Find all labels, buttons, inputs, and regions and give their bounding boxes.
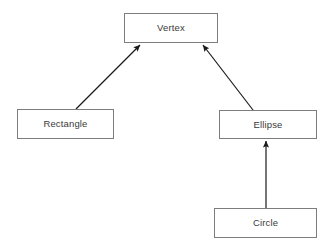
node-ellipse-label: Ellipse [253, 120, 282, 130]
node-circle-label: Circle [253, 218, 278, 228]
edge-rectangle-to-vertex [76, 45, 140, 109]
node-rectangle[interactable]: Rectangle [17, 109, 114, 139]
edge-ellipse-to-vertex [203, 45, 253, 110]
class-diagram-canvas: Vertex Rectangle Ellipse Circle [0, 0, 335, 250]
node-circle[interactable]: Circle [214, 208, 317, 238]
node-ellipse[interactable]: Ellipse [219, 110, 317, 139]
node-rectangle-label: Rectangle [43, 119, 87, 129]
node-vertex[interactable]: Vertex [124, 13, 218, 43]
node-vertex-label: Vertex [157, 23, 185, 33]
